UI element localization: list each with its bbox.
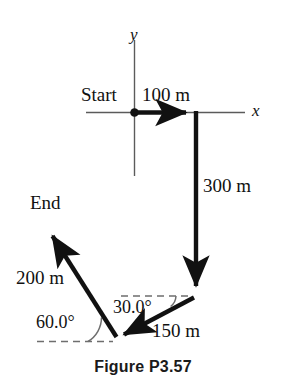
label-angle-60: 60.0° bbox=[36, 313, 75, 331]
angle-arc-60 bbox=[88, 318, 102, 342]
label-200m: 200 m bbox=[16, 268, 64, 287]
angle-arc-30 bbox=[171, 296, 176, 307]
label-100m: 100 m bbox=[142, 85, 190, 104]
label-300m: 300 m bbox=[203, 176, 251, 195]
end-label: End bbox=[30, 193, 61, 212]
y-axis-label: y bbox=[130, 26, 138, 43]
x-axis-label: x bbox=[252, 102, 260, 119]
start-label: Start bbox=[81, 85, 117, 104]
figure-caption: Figure P3.57 bbox=[0, 358, 286, 376]
label-150m: 150 m bbox=[152, 321, 200, 340]
physics-vector-figure: x y Start End 100 m 300 m 150 m 200 m 30… bbox=[0, 0, 286, 383]
label-angle-30: 30.0° bbox=[113, 298, 152, 316]
